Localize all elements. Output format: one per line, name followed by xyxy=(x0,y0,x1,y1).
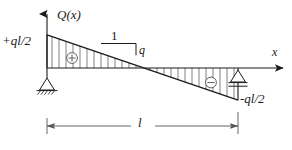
negative-sign-badge xyxy=(206,77,217,88)
positive-shear-label: +ql/2 xyxy=(2,34,31,47)
diagram-canvas xyxy=(0,0,292,150)
slope-run-label: 1 xyxy=(111,29,118,42)
span-length-label: l xyxy=(138,116,142,129)
slope-triangle xyxy=(101,44,136,56)
q-axis-label: Q(x) xyxy=(57,8,81,21)
slope-rise-label: q xyxy=(139,44,145,56)
shear-force-diagram: Q(x) +ql/2 -ql/2 x 1 q l xyxy=(0,0,292,150)
positive-sign-badge xyxy=(67,53,78,64)
pin-support-left xyxy=(37,78,58,95)
negative-shear-label: -ql/2 xyxy=(240,92,265,105)
span-dimension-line xyxy=(47,112,238,134)
x-axis-label: x xyxy=(272,46,277,58)
